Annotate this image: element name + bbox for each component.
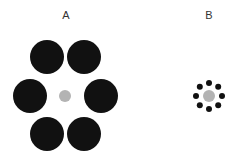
panel-b-label: B [205,9,212,21]
panel-a-label: A [62,9,70,21]
large-inducer-circle [30,40,64,74]
small-inducer-circle [215,84,221,90]
small-inducer-circle [215,102,221,108]
ebbinghaus-diagram: A B [0,0,242,162]
large-inducer-circle [67,40,101,74]
target-circle [203,90,215,102]
small-inducer-circle [193,93,199,99]
small-inducer-circle [197,102,203,108]
target-circle [59,90,71,102]
small-inducer-circle [197,84,203,90]
panel-b-small-inducers [193,80,225,112]
large-inducer-circle [67,117,101,151]
small-inducer-circle [206,106,212,112]
large-inducer-circle [30,117,64,151]
large-inducer-circle [13,79,47,113]
small-inducer-circle [206,80,212,86]
large-inducer-circle [84,79,118,113]
small-inducer-circle [219,93,225,99]
panel-a-large-inducers [13,40,118,151]
